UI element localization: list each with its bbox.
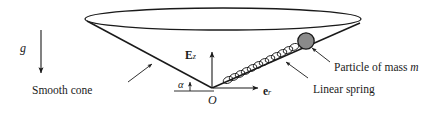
particle-mass-symbol: m bbox=[410, 61, 418, 73]
ez-vector-subscript: z bbox=[193, 52, 196, 61]
er-vector-label: er bbox=[263, 82, 271, 98]
particle-leader-line bbox=[312, 48, 330, 62]
angle-alpha-label: α bbox=[178, 80, 184, 91]
ez-vector-symbol: E bbox=[185, 49, 193, 61]
particle-mass-text: Particle of mass bbox=[334, 61, 410, 73]
gravity-label: g bbox=[20, 42, 26, 54]
origin-label: O bbox=[208, 94, 217, 106]
er-vector-subscript: r bbox=[268, 88, 271, 97]
particle-mass-label: Particle of mass m bbox=[334, 62, 419, 74]
ez-vector-label: Ez bbox=[185, 46, 196, 62]
smooth-cone-leader-line bbox=[128, 64, 152, 82]
smooth-cone-label: Smooth cone bbox=[32, 85, 92, 97]
physics-diagram-cone-spring: g Smooth cone Ez α O er Particle of mass… bbox=[0, 0, 430, 116]
cone-rim-ellipse bbox=[85, 8, 361, 30]
linear-spring-leader-line bbox=[286, 62, 308, 78]
linear-spring-label: Linear spring bbox=[313, 84, 375, 96]
particle-mass-circle bbox=[298, 33, 314, 49]
cone-right-edge bbox=[212, 23, 360, 88]
